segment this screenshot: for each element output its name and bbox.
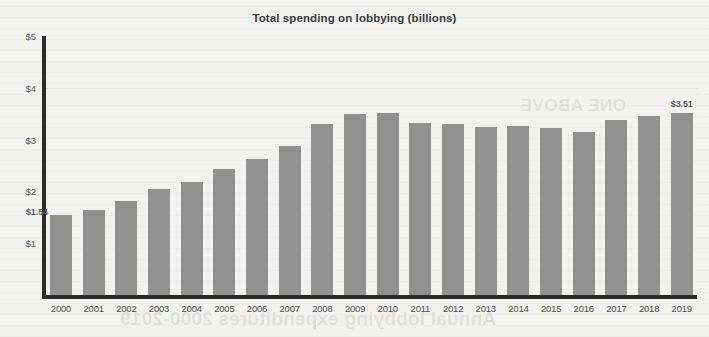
- bar-series: $1.54$3.51: [46, 36, 697, 295]
- bar-slot: [148, 36, 170, 295]
- x-axis-tick-label: 2016: [573, 303, 595, 321]
- bar: [115, 201, 137, 295]
- bar-slot: [181, 36, 203, 295]
- chart-title: Total spending on lobbying (billions): [0, 12, 709, 24]
- bar: [475, 127, 497, 295]
- y-axis-tick-label: $3: [6, 134, 36, 145]
- bar: [83, 210, 105, 295]
- x-axis-tick-label: 2017: [605, 303, 627, 321]
- bar: [181, 182, 203, 295]
- bar-slot: [246, 36, 268, 295]
- y-axis-tick-label: $4: [6, 82, 36, 93]
- x-axis-tick-label: 2007: [279, 303, 301, 321]
- bar-slot: [115, 36, 137, 295]
- x-axis-tick-label: 2011: [409, 303, 431, 321]
- x-axis-tick-label: 2000: [50, 303, 72, 321]
- bar-value-label: $1.54: [26, 207, 48, 217]
- bar: [573, 132, 595, 295]
- bar-value-label: $3.51: [671, 99, 693, 109]
- x-axis-tick-label: 2019: [671, 303, 693, 321]
- bar-slot: [540, 36, 562, 295]
- x-axis-tick-label: 2002: [115, 303, 137, 321]
- bar: [279, 146, 301, 295]
- bar-slot: $3.51: [671, 36, 693, 295]
- x-axis-tick-label: 2018: [638, 303, 660, 321]
- x-axis-line: [42, 295, 697, 299]
- bar-slot: [311, 36, 333, 295]
- x-axis-tick-label: 2003: [148, 303, 170, 321]
- bar: [50, 215, 72, 295]
- x-axis-tick-label: 2012: [442, 303, 464, 321]
- x-axis-tick-label: 2001: [83, 303, 105, 321]
- bar: [507, 126, 529, 295]
- bar: [671, 113, 693, 295]
- bar: [409, 123, 431, 295]
- bar: [377, 113, 399, 295]
- x-axis-tick-label: 2013: [475, 303, 497, 321]
- bar: [638, 116, 660, 295]
- bar-slot: [573, 36, 595, 295]
- bar: [540, 128, 562, 295]
- bar-slot: [344, 36, 366, 295]
- bar-slot: [409, 36, 431, 295]
- bar: [148, 189, 170, 295]
- x-axis-tick-label: 2004: [181, 303, 203, 321]
- bar: [246, 159, 268, 295]
- bar-slot: [83, 36, 105, 295]
- x-axis-tick-label: 2006: [246, 303, 268, 321]
- bar-slot: [605, 36, 627, 295]
- y-axis-tick-label: $1: [6, 238, 36, 249]
- bar: [213, 169, 235, 295]
- y-axis-tick-label: $2: [6, 186, 36, 197]
- bar: [442, 124, 464, 295]
- x-axis-tick-label: 2010: [377, 303, 399, 321]
- x-axis-tick-label: 2014: [507, 303, 529, 321]
- bar-slot: [507, 36, 529, 295]
- x-axis-tick-label: 2009: [344, 303, 366, 321]
- x-axis-tick-label: 2005: [213, 303, 235, 321]
- bar-slot: [442, 36, 464, 295]
- bar-slot: $1.54: [50, 36, 72, 295]
- bar: [605, 120, 627, 295]
- x-axis-labels: 2000200120022003200420052006200720082009…: [46, 303, 697, 321]
- bar-slot: [638, 36, 660, 295]
- lobbying-spending-bar-chart: Annual lobbying expenditures 2000-2019 O…: [0, 0, 709, 337]
- y-axis-tick-label: $5: [6, 31, 36, 42]
- bar: [311, 124, 333, 295]
- bar-slot: [279, 36, 301, 295]
- bar-slot: [213, 36, 235, 295]
- x-axis-tick-label: 2015: [540, 303, 562, 321]
- bar-slot: [475, 36, 497, 295]
- x-axis-tick-label: 2008: [311, 303, 333, 321]
- bar-slot: [377, 36, 399, 295]
- bar: [344, 114, 366, 295]
